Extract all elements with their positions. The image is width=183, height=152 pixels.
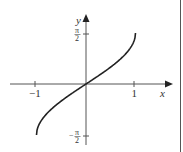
y-tick-label-bot-den: 2 <box>75 136 79 145</box>
y-axis-label: y <box>75 14 81 26</box>
x-tick-label-neg1: −1 <box>29 87 41 99</box>
y-tick-label-bot-sign: − <box>69 131 74 140</box>
arcsin-graph: −1 1 x y π 2 − π 2 <box>0 0 183 152</box>
x-axis-label: x <box>159 87 165 99</box>
y-axis-arrow-icon <box>83 14 90 22</box>
y-tick-label-top-den: 2 <box>75 34 79 43</box>
x-axis-arrow-icon <box>165 81 173 88</box>
x-tick-label-pos1: 1 <box>132 87 138 99</box>
